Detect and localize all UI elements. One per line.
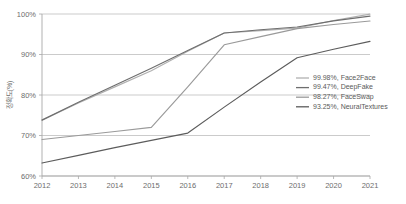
x-tick-label: 2020 xyxy=(325,181,342,190)
y-axis-ticks: 60%70%80%90%100% xyxy=(17,10,42,181)
legend-label-deepfake: 99.47%, DeepFake xyxy=(313,83,373,91)
y-tick-label: 100% xyxy=(17,10,37,19)
y-tick-label: 70% xyxy=(21,131,36,140)
chart-legend: 99.98%, Face2Face99.47%, DeepFake98.27%,… xyxy=(296,74,388,110)
x-axis-ticks: 2012201320142015201620172018201920202021 xyxy=(34,176,379,190)
y-tick-label: 60% xyxy=(21,172,36,181)
y-tick-label: 90% xyxy=(21,50,36,59)
chart-container: 60%70%80%90%100% 20122013201420152016201… xyxy=(0,0,406,204)
x-tick-label: 2018 xyxy=(252,181,269,190)
x-tick-label: 2012 xyxy=(34,181,51,190)
y-tick-label: 80% xyxy=(21,91,36,100)
legend-label-faceswap: 98.27%, FaceSwap xyxy=(313,93,374,101)
x-tick-label: 2014 xyxy=(107,181,124,190)
x-tick-label: 2017 xyxy=(216,181,233,190)
y-axis-title-text: 정확도(%) xyxy=(5,81,14,110)
legend-label-face2face: 99.98%, Face2Face xyxy=(313,74,376,81)
line-chart: 60%70%80%90%100% 20122013201420152016201… xyxy=(0,0,406,204)
legend-label-neuraltextures: 93.25%, NeuralTextures xyxy=(313,103,388,110)
x-tick-label: 2019 xyxy=(289,181,306,190)
x-tick-label: 2016 xyxy=(179,181,196,190)
x-tick-label: 2015 xyxy=(143,181,160,190)
x-tick-label: 2013 xyxy=(70,181,87,190)
x-tick-label: 2021 xyxy=(362,181,379,190)
y-axis-title: 정확도(%) xyxy=(5,81,14,110)
